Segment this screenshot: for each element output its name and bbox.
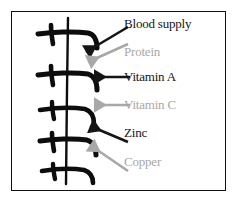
label-vitamin-c: Vitamin C <box>124 98 176 112</box>
diagram-root: Blood supply Protein Vitamin A Vitamin C… <box>0 0 235 203</box>
label-zinc: Zinc <box>124 126 147 140</box>
plant-stem <box>66 18 68 184</box>
label-blood-supply: Blood supply <box>124 17 191 31</box>
copper-arrow <box>90 145 128 171</box>
label-copper: Copper <box>124 155 161 169</box>
zinc-arrow <box>90 126 128 142</box>
label-vitamin-a: Vitamin A <box>124 70 176 84</box>
label-protein: Protein <box>124 45 160 59</box>
